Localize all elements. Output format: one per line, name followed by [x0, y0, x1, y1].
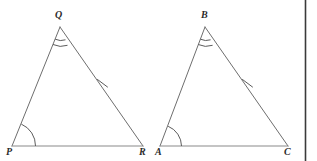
vertex-label-r: R	[139, 147, 146, 157]
triangle-abc	[160, 27, 288, 146]
angle-arc-q-inner	[55, 39, 65, 40]
vertex-label-p: P	[6, 147, 12, 157]
angle-arc-p	[21, 124, 35, 146]
angle-arc-q-outer	[53, 45, 68, 47]
segment-pq	[12, 27, 60, 146]
angle-arc-a	[168, 126, 181, 146]
triangles-diagram	[0, 0, 317, 161]
vertex-label-a: A	[155, 147, 162, 157]
vertex-label-q: Q	[55, 10, 62, 20]
angle-arc-b-outer	[198, 45, 212, 47]
segment-qr	[60, 27, 143, 146]
geometry-figure: Q P R B A C	[0, 0, 317, 161]
angle-arc-b-inner	[200, 39, 210, 40]
vertex-label-b: B	[201, 10, 208, 20]
segment-bc	[205, 27, 288, 146]
vertex-label-c: C	[284, 147, 291, 157]
triangle-pqr	[12, 27, 143, 146]
